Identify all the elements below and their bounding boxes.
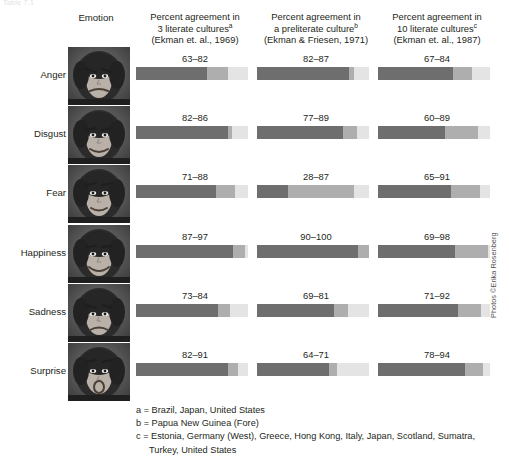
range-label-sadness-col2: 71–92 bbox=[376, 290, 498, 301]
bar-segment-low bbox=[257, 126, 343, 139]
bar-segment-remainder bbox=[228, 67, 248, 80]
bar-segment-range bbox=[334, 304, 347, 317]
footnote-marker-b: b bbox=[354, 21, 358, 28]
bar-segment-range bbox=[453, 67, 472, 80]
bar-segment-low bbox=[257, 304, 334, 317]
bar-segment-remainder bbox=[232, 126, 248, 139]
range-label-happiness-col1: 90–100 bbox=[255, 231, 377, 242]
bar-segment-low bbox=[136, 363, 228, 376]
emotion-label-happiness: Happiness bbox=[0, 247, 66, 258]
range-bar-fear-col1 bbox=[257, 185, 369, 198]
footnote-marker-a: a bbox=[229, 21, 233, 28]
range-bar-sadness-col2 bbox=[378, 304, 490, 317]
range-label-sadness-col1: 69–81 bbox=[255, 290, 377, 301]
range-label-disgust-col2: 60–89 bbox=[376, 112, 498, 123]
bar-segment-remainder bbox=[354, 67, 369, 80]
range-label-disgust-col0: 82–86 bbox=[134, 112, 256, 123]
range-bar-anger-col0 bbox=[136, 67, 248, 80]
bar-segment-low bbox=[136, 185, 216, 198]
range-label-anger-col0: 63–82 bbox=[134, 53, 256, 64]
bar-segment-low bbox=[136, 245, 233, 258]
range-label-happiness-col2: 69–98 bbox=[376, 231, 498, 242]
range-bar-disgust-col1 bbox=[257, 126, 369, 139]
range-label-sadness-col0: 73–84 bbox=[134, 290, 256, 301]
bar-segment-low bbox=[378, 67, 453, 80]
column-header-line1: Percent agreement in bbox=[392, 11, 482, 22]
column-header-line1: Percent agreement in bbox=[271, 11, 361, 22]
column-header-0: Percent agreement in 3 literate cultures… bbox=[134, 11, 256, 46]
column-header-2: Percent agreement in 10 literate culture… bbox=[376, 11, 498, 46]
bar-segment-low bbox=[257, 185, 288, 198]
range-bar-surprise-col0 bbox=[136, 363, 248, 376]
emotion-label-anger: Anger bbox=[0, 69, 66, 80]
bar-segment-range bbox=[343, 126, 356, 139]
bar-segment-low bbox=[378, 245, 455, 258]
column-header-line3: (Ekman et. al., 1969) bbox=[151, 34, 238, 45]
range-label-fear-col0: 71–88 bbox=[134, 171, 256, 182]
face-photo-surprise bbox=[68, 343, 130, 401]
emotion-label-fear: Fear bbox=[0, 187, 66, 198]
bar-segment-range bbox=[233, 245, 244, 258]
range-label-surprise-col1: 64–71 bbox=[255, 349, 377, 360]
range-bar-disgust-col2 bbox=[378, 126, 490, 139]
range-bar-happiness-col2 bbox=[378, 245, 490, 258]
range-label-disgust-col1: 77–89 bbox=[255, 112, 377, 123]
bar-segment-low bbox=[378, 185, 451, 198]
face-photo-happiness bbox=[68, 225, 130, 283]
range-bar-happiness-col1 bbox=[257, 245, 369, 258]
bar-segment-remainder bbox=[245, 245, 248, 258]
column-header-line2: a preliterate culture bbox=[274, 23, 354, 34]
bar-segment-remainder bbox=[480, 185, 490, 198]
bar-segment-low bbox=[378, 126, 445, 139]
bar-segment-range bbox=[329, 363, 337, 376]
range-label-fear-col1: 28–87 bbox=[255, 171, 377, 182]
range-bar-fear-col0 bbox=[136, 185, 248, 198]
bar-segment-remainder bbox=[357, 126, 369, 139]
footnote-c: c = Estonia, Germany (West), Greece, Hon… bbox=[136, 430, 476, 443]
range-label-anger-col2: 67–84 bbox=[376, 53, 498, 64]
range-label-surprise-col2: 78–94 bbox=[376, 349, 498, 360]
emotion-label-surprise: Surprise bbox=[0, 365, 66, 376]
range-bar-happiness-col0 bbox=[136, 245, 248, 258]
footnote-marker-c: c bbox=[474, 21, 477, 28]
range-bar-surprise-col2 bbox=[378, 363, 490, 376]
footnotes: a = Brazil, Japan, United States b = Pap… bbox=[136, 404, 476, 457]
emotion-column-header: Emotion bbox=[60, 12, 132, 23]
bar-segment-remainder bbox=[238, 363, 248, 376]
footnote-a: a = Brazil, Japan, United States bbox=[136, 404, 476, 417]
column-header-line2: 10 literate cultures bbox=[397, 23, 474, 34]
footnote-b: b = Papua New Guinea (Fore) bbox=[136, 417, 476, 430]
emotion-label-disgust: Disgust bbox=[0, 128, 66, 139]
bar-segment-range bbox=[207, 67, 228, 80]
emotion-label-sadness: Sadness bbox=[0, 306, 66, 317]
face-photo-sadness bbox=[68, 284, 130, 342]
face-photo-disgust bbox=[68, 106, 130, 164]
footnote-c-cont: Turkey, United States bbox=[136, 444, 476, 457]
bar-segment-range bbox=[288, 185, 354, 198]
column-header-1: Percent agreement in a preliterate cultu… bbox=[255, 11, 377, 46]
bar-segment-low bbox=[257, 363, 329, 376]
bar-segment-low bbox=[378, 363, 465, 376]
bar-segment-remainder bbox=[478, 126, 490, 139]
range-bar-anger-col1 bbox=[257, 67, 369, 80]
bar-segment-range bbox=[228, 363, 238, 376]
bar-segment-low bbox=[257, 245, 358, 258]
bar-segment-range bbox=[445, 126, 477, 139]
emotion-agreement-figure: Table 7.1 Emotion Percent agreement in 3… bbox=[0, 0, 509, 459]
bar-segment-range bbox=[358, 245, 369, 258]
bar-segment-range bbox=[458, 304, 482, 317]
bar-segment-low bbox=[378, 304, 458, 317]
bar-segment-remainder bbox=[354, 185, 369, 198]
range-bar-disgust-col0 bbox=[136, 126, 248, 139]
range-bar-surprise-col1 bbox=[257, 363, 369, 376]
bar-segment-range bbox=[218, 304, 230, 317]
bar-segment-range bbox=[451, 185, 480, 198]
column-header-line2: 3 literate cultures bbox=[157, 23, 228, 34]
range-label-fear-col2: 65–91 bbox=[376, 171, 498, 182]
range-label-happiness-col0: 87–97 bbox=[134, 231, 256, 242]
range-label-anger-col1: 82–87 bbox=[255, 53, 377, 64]
range-bar-fear-col2 bbox=[378, 185, 490, 198]
bar-segment-remainder bbox=[337, 363, 369, 376]
face-photo-fear bbox=[68, 165, 130, 223]
range-bar-sadness-col0 bbox=[136, 304, 248, 317]
